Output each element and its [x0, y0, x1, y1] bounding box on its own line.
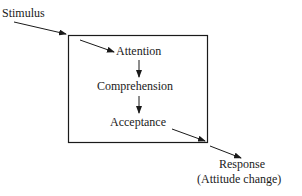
- stimulus-label: Stimulus: [2, 6, 45, 20]
- acceptance-label: Acceptance: [110, 115, 166, 129]
- attention-label: Attention: [116, 44, 161, 58]
- comprehension-label: Comprehension: [97, 79, 173, 93]
- response-subtitle: (Attitude change): [197, 172, 281, 186]
- response-label: Response: [219, 157, 265, 171]
- attention-arrow: [80, 40, 114, 52]
- acceptance-arrow: [172, 129, 205, 141]
- stimulus-arrow: [14, 22, 66, 34]
